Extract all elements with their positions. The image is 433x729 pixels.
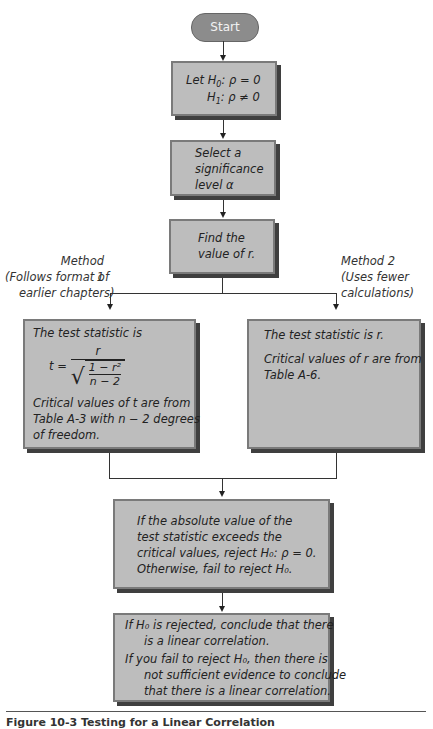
inner-denominator: n − 2 (90, 375, 120, 388)
connector-find-branch (222, 278, 223, 293)
find-r-box: Find the value of r. (169, 219, 275, 274)
arrow-down-icon (220, 133, 226, 139)
method2-title: Method 2 (341, 253, 395, 269)
caption-divider (6, 711, 426, 712)
connector-start-hypotheses (223, 41, 224, 56)
arrow-down-icon (333, 304, 339, 310)
formula-numerator: r (71, 343, 125, 360)
decision-line-2: test statistic exceeds the (137, 529, 316, 545)
formula-denominator: √ 1 − r² n − 2 (71, 360, 125, 388)
formula-fraction: r √ 1 − r² n − 2 (71, 343, 125, 388)
figure-caption: Figure 10-3 Testing for a Linear Correla… (6, 716, 275, 729)
t-formula: t = r √ 1 − r² n − 2 (49, 343, 125, 388)
method1-line-1: The test statistic is (33, 325, 142, 341)
method2-box: The test statistic is r. Critical values… (247, 319, 421, 449)
inner-fraction: 1 − r² n − 2 (89, 361, 121, 388)
method2-line-1: The test statistic is r. (264, 327, 384, 343)
h1-line: H1: ρ ≠ 0 (207, 89, 260, 110)
inner-numerator: 1 − r² (89, 361, 121, 375)
formula-lhs: t = (49, 358, 67, 374)
connector-method2-merge (336, 453, 337, 478)
conclusion-line-2: is a linear correlation. (144, 633, 270, 649)
connector-method1-merge (109, 453, 110, 478)
radical-sign-icon: √ (71, 366, 85, 388)
arrow-down-icon (219, 491, 225, 497)
method2-line-3: Table A-6. (264, 367, 321, 383)
decision-line-3: critical values, reject H₀: ρ = 0. (137, 545, 316, 561)
arrow-down-icon (220, 212, 226, 218)
method1-note-2: earlier chapters) (19, 285, 114, 301)
method1-box: The test statistic is t = r √ 1 − r² n −… (23, 319, 196, 449)
method1-line-2: Critical values of t are from (33, 395, 190, 411)
decision-line-1: If the absolute value of the (137, 513, 316, 529)
conclusion-box: If H₀ is rejected, conclude that there i… (113, 613, 330, 702)
find-r-line-1: Find the (198, 230, 255, 246)
arrow-down-icon (107, 304, 113, 310)
connector-hypotheses-significance (223, 120, 224, 134)
h0-symbol: H (208, 73, 217, 87)
significance-text: Select a significance level α (195, 145, 263, 193)
decision-text: If the absolute value of the test statis… (137, 513, 316, 577)
decision-box: If the absolute value of the test statis… (113, 499, 330, 589)
significance-box: Select a significance level α (170, 140, 276, 196)
significance-line-3: level α (195, 177, 263, 193)
conclusion-line-5: that there is a linear correlation. (144, 683, 331, 699)
find-r-text: Find the value of r. (198, 230, 255, 262)
method2-note-2: calculations) (341, 285, 414, 301)
conclusion-line-3: If you fail to reject H₀, then there is (125, 651, 328, 667)
start-node: Start (191, 13, 259, 42)
h1-symbol: H (207, 90, 216, 104)
hypotheses-box: Let H0: ρ = 0 H1: ρ ≠ 0 (171, 61, 277, 116)
method1-line-4: of freedom. (33, 427, 100, 443)
method2-note-1: (Uses fewer (341, 269, 409, 285)
connector-decision-conclusion (222, 593, 223, 607)
decision-line-4: Otherwise, fail to reject H₀. (137, 561, 316, 577)
connector-merge-decision (222, 478, 223, 492)
significance-line-1: Select a (195, 145, 263, 161)
find-r-line-2: value of r. (198, 246, 255, 262)
method2-line-2: Critical values of r are from (264, 351, 422, 367)
conclusion-line-4: not sufficient evidence to conclude (144, 667, 346, 683)
h1-rest: : ρ ≠ 0 (221, 90, 260, 104)
sqrt-body: 1 − r² n − 2 (85, 360, 125, 388)
let-text: Let (186, 73, 208, 87)
method1-note-1: (Follows format of (5, 269, 109, 285)
conclusion-line-1: If H₀ is rejected, conclude that there (125, 617, 334, 633)
method1-line-3: Table A-3 with n − 2 degrees (33, 411, 200, 427)
h0-rest: : ρ = 0 (221, 73, 260, 87)
arrow-down-icon (219, 606, 225, 612)
sqrt-expression: √ 1 − r² n − 2 (71, 360, 125, 388)
branch-horizontal-line (110, 293, 336, 294)
start-label: Start (210, 20, 239, 34)
merge-horizontal-line (109, 478, 337, 479)
significance-line-2: significance (195, 161, 263, 177)
